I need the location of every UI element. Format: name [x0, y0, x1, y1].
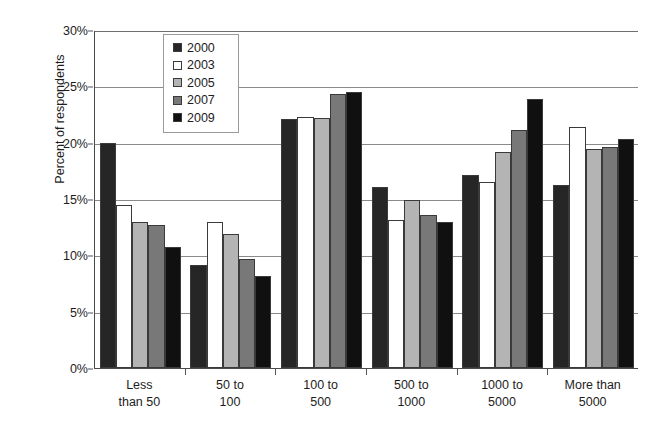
bar-group	[276, 31, 367, 368]
legend-swatch-icon	[173, 78, 182, 87]
x-axis-tick-mark	[457, 369, 458, 375]
y-axis-tick-mark	[88, 31, 93, 32]
x-axis-tick-mark	[185, 369, 186, 375]
bar-2003-6	[569, 127, 585, 368]
bar-2000-6	[553, 185, 569, 368]
legend-swatch-icon	[173, 113, 182, 122]
y-axis-tick-mark	[88, 256, 93, 257]
bar-2005-3	[314, 118, 330, 368]
legend-item-2000: 2000	[164, 39, 238, 57]
bar-2007-4	[420, 215, 436, 368]
bar-2000-3	[281, 119, 297, 368]
bar-2000-4	[372, 187, 388, 368]
bar-2005-6	[586, 149, 602, 368]
legend-item-2009: 2009	[164, 109, 238, 127]
legend-label: 2009	[187, 112, 215, 125]
chart-legend: 20002003200520072009	[163, 34, 239, 133]
legend-label: 2003	[187, 59, 215, 72]
bar-2007-2	[239, 259, 255, 368]
legend-label: 2000	[187, 42, 215, 55]
y-axis-tick-label: 25%	[42, 80, 88, 94]
bar-2007-1	[148, 225, 164, 368]
y-axis-tick-label: 20%	[42, 137, 88, 151]
bar-group	[367, 31, 458, 368]
bar-2007-6	[602, 147, 618, 368]
y-axis-tick-labels: 0%5%10%15%20%25%30%	[40, 0, 88, 443]
y-axis-tick-label: 5%	[42, 306, 88, 320]
y-axis-tick-label: 15%	[42, 193, 88, 207]
bar-2007-3	[330, 94, 346, 368]
bar-2000-5	[462, 175, 478, 368]
bar-2003-5	[479, 182, 495, 368]
y-axis-tick-mark	[88, 87, 93, 88]
bar-2003-4	[388, 220, 404, 368]
x-axis-tick-mark	[547, 369, 548, 375]
y-axis-tick-mark	[88, 200, 93, 201]
bar-group	[458, 31, 549, 368]
bar-2000-1	[100, 143, 116, 368]
bar-2003-3	[297, 117, 313, 368]
x-axis-tick-mark	[275, 369, 276, 375]
bar-2000-2	[190, 265, 206, 368]
legend-label: 2005	[187, 77, 215, 90]
bar-2005-4	[404, 200, 420, 368]
bar-chart: Percent of respondents 0%5%10%15%20%25%3…	[0, 0, 671, 443]
y-axis-tick-label: 30%	[42, 24, 88, 38]
x-axis-tick-mark	[366, 369, 367, 375]
bar-2005-5	[495, 152, 511, 368]
bar-2003-1	[116, 205, 132, 368]
bar-2009-1	[165, 247, 181, 368]
bar-2009-4	[437, 222, 453, 368]
x-axis-category-label: More than 5000	[535, 377, 650, 410]
bar-2009-2	[255, 276, 271, 368]
legend-label: 2007	[187, 94, 215, 107]
y-axis-tick-mark	[88, 369, 93, 370]
bar-2009-3	[346, 92, 362, 368]
legend-item-2003: 2003	[164, 57, 238, 75]
bar-2007-5	[511, 130, 527, 368]
legend-swatch-icon	[173, 96, 182, 105]
bar-2009-6	[618, 139, 634, 368]
legend-swatch-icon	[173, 61, 182, 70]
bar-group	[548, 31, 639, 368]
y-axis-tick-label: 0%	[42, 362, 88, 376]
legend-item-2005: 2005	[164, 74, 238, 92]
y-axis-tick-mark	[88, 312, 93, 313]
bar-2005-2	[223, 234, 239, 368]
y-axis-tick-mark	[88, 143, 93, 144]
bar-2003-2	[207, 222, 223, 368]
legend-swatch-icon	[173, 43, 182, 52]
y-axis-tick-label: 10%	[42, 249, 88, 263]
bar-2009-5	[527, 99, 543, 368]
bar-2005-1	[132, 222, 148, 368]
legend-item-2007: 2007	[164, 92, 238, 110]
